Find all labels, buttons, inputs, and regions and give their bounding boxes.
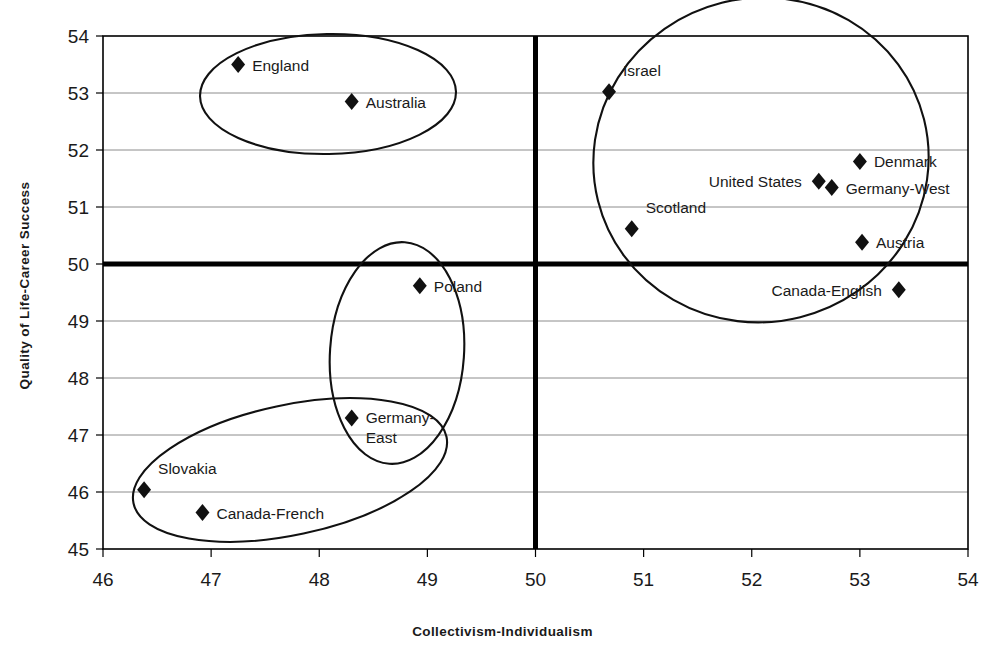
point-label-austria: Austria	[876, 234, 925, 251]
marker-diamond-icon	[137, 481, 151, 498]
point-label-germany-west: Germany-West	[846, 180, 951, 197]
point-label-england: England	[252, 57, 309, 74]
data-point-canada-french: Canada-French	[196, 504, 325, 522]
y-axis-tick-labels: 45464748495051525354	[68, 26, 90, 560]
y-tick-label-54: 54	[68, 26, 90, 47]
y-axis-title: Quality of Life-Career Success	[17, 76, 32, 496]
x-tick-label-47: 47	[201, 569, 222, 590]
data-point-poland: Poland	[413, 277, 482, 295]
point-label-israel: Israel	[623, 62, 661, 79]
marker-diamond-icon	[892, 281, 906, 298]
data-point-germany-east: Germany-East	[345, 409, 435, 446]
point-label-germany-east-line2: East	[366, 429, 398, 446]
data-point-scotland: Scotland	[625, 199, 706, 238]
point-label-slovakia: Slovakia	[158, 460, 217, 477]
data-points-layer: EnglandAustraliaIsraelDenmarkUnited Stat…	[137, 56, 950, 522]
x-tick-label-50: 50	[525, 569, 546, 590]
y-tick-label-48: 48	[68, 368, 89, 389]
y-tick-label-52: 52	[68, 140, 89, 161]
point-label-canada-french: Canada-French	[216, 505, 324, 522]
x-tick-label-54: 54	[957, 569, 979, 590]
x-tick-label-46: 46	[92, 569, 113, 590]
y-tick-label-53: 53	[68, 83, 89, 104]
x-axis-tick-labels: 464748495051525354	[92, 569, 979, 590]
point-label-poland: Poland	[434, 278, 482, 295]
y-tick-label-45: 45	[68, 539, 89, 560]
marker-diamond-icon	[345, 409, 359, 426]
y-tick-label-47: 47	[68, 425, 89, 446]
plot-canvas: 464748495051525354 45464748495051525354 …	[0, 0, 1005, 661]
y-tick-label-46: 46	[68, 482, 89, 503]
x-tick-label-53: 53	[849, 569, 870, 590]
marker-diamond-icon	[825, 179, 839, 196]
marker-diamond-icon	[345, 93, 359, 110]
x-tick-label-49: 49	[417, 569, 438, 590]
marker-diamond-icon	[853, 153, 867, 170]
point-label-denmark: Denmark	[874, 153, 937, 170]
marker-diamond-icon	[855, 234, 869, 251]
point-label-germany-east: Germany-	[366, 409, 435, 426]
data-point-israel: Israel	[602, 62, 661, 101]
point-label-australia: Australia	[366, 94, 427, 111]
point-label-scotland: Scotland	[646, 199, 706, 216]
point-label-united-states: United States	[709, 173, 802, 190]
data-point-canada-english: Canada-English	[772, 281, 906, 299]
transition-cluster-ellipse	[322, 238, 471, 469]
data-point-united-states: United States	[709, 173, 826, 191]
y-tick-label-51: 51	[68, 197, 89, 218]
data-point-england: England	[231, 56, 309, 74]
data-point-germany-west: Germany-West	[825, 179, 951, 197]
marker-diamond-icon	[625, 220, 639, 237]
x-axis-title: Collectivism-Individualism	[0, 624, 1005, 639]
y-tick-label-50: 50	[68, 254, 89, 275]
data-point-australia: Australia	[345, 93, 427, 111]
marker-diamond-icon	[413, 277, 427, 294]
scatter-chart-figure: 464748495051525354 45464748495051525354 …	[0, 0, 1005, 661]
x-tick-label-51: 51	[633, 569, 654, 590]
data-point-denmark: Denmark	[853, 153, 937, 171]
point-label-canada-english: Canada-English	[772, 282, 882, 299]
marker-diamond-icon	[196, 504, 210, 521]
x-tick-label-52: 52	[741, 569, 762, 590]
y-tick-label-49: 49	[68, 311, 89, 332]
data-point-austria: Austria	[855, 234, 925, 252]
x-tick-label-48: 48	[309, 569, 330, 590]
marker-diamond-icon	[231, 56, 245, 73]
marker-diamond-icon	[812, 173, 826, 190]
